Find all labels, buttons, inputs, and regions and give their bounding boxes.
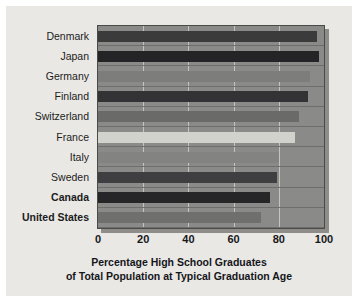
y-label-canada: Canada <box>51 192 89 203</box>
chart-figure: DenmarkJapanGermanyFinlandSwitzerlandFra… <box>0 0 358 302</box>
bar-canada[interactable] <box>98 192 270 203</box>
x-tick-40: 40 <box>182 233 194 245</box>
x-tick-60: 60 <box>227 233 239 245</box>
x-axis-tick-labels: 020406080100 <box>0 233 358 249</box>
y-label-switzerland: Switzerland <box>35 111 89 122</box>
y-label-finland: Finland <box>55 91 89 102</box>
bar-sweden[interactable] <box>98 172 277 183</box>
y-label-italy: Italy <box>70 152 89 163</box>
x-tick-0: 0 <box>95 233 101 245</box>
y-label-denmark: Denmark <box>46 31 89 42</box>
y-label-france: France <box>56 132 89 143</box>
x-axis-title: Percentage High School Graduates of Tota… <box>0 256 358 283</box>
y-axis-labels: DenmarkJapanGermanyFinlandSwitzerlandFra… <box>0 25 94 229</box>
x-axis-title-line-2: of Total Population at Typical Graduatio… <box>0 270 358 284</box>
bar-germany[interactable] <box>98 71 310 82</box>
y-label-united-states: United States <box>22 212 89 223</box>
gridline-100 <box>324 26 325 228</box>
plot-area <box>98 26 324 228</box>
y-label-germany: Germany <box>46 71 89 82</box>
plot-panel <box>97 25 325 229</box>
bar-finland[interactable] <box>98 91 308 102</box>
bar-switzerland[interactable] <box>98 111 299 122</box>
bar-united-states[interactable] <box>98 212 261 223</box>
y-label-japan: Japan <box>60 51 89 62</box>
y-label-sweden: Sweden <box>51 172 89 183</box>
bar-denmark[interactable] <box>98 31 317 42</box>
x-tick-100: 100 <box>315 233 333 245</box>
x-tick-20: 20 <box>137 233 149 245</box>
x-tick-80: 80 <box>273 233 285 245</box>
bar-italy[interactable] <box>98 152 279 163</box>
bar-france[interactable] <box>98 132 295 143</box>
x-axis-title-line-1: Percentage High School Graduates <box>0 256 358 270</box>
bar-japan[interactable] <box>98 51 319 62</box>
